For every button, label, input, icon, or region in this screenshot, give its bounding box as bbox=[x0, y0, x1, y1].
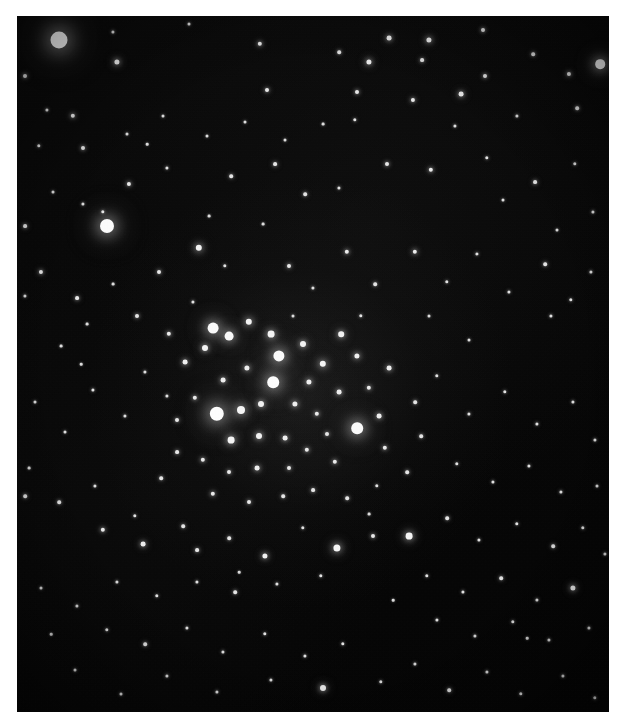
star bbox=[315, 412, 319, 416]
star bbox=[193, 396, 197, 400]
star bbox=[211, 492, 215, 496]
star bbox=[191, 300, 194, 303]
star bbox=[595, 59, 605, 69]
star bbox=[385, 162, 389, 166]
star bbox=[392, 599, 395, 602]
star bbox=[227, 470, 231, 474]
star bbox=[40, 587, 43, 590]
star bbox=[159, 476, 163, 480]
star bbox=[284, 139, 287, 142]
photographic-plate bbox=[0, 0, 619, 726]
star bbox=[93, 484, 96, 487]
star bbox=[126, 133, 129, 136]
star bbox=[515, 522, 518, 525]
star bbox=[75, 604, 78, 607]
star bbox=[287, 264, 291, 268]
star bbox=[256, 433, 262, 439]
star bbox=[183, 360, 188, 365]
star bbox=[273, 162, 277, 166]
star bbox=[123, 414, 126, 417]
star bbox=[181, 524, 185, 528]
star bbox=[435, 374, 438, 377]
star bbox=[481, 28, 485, 32]
star bbox=[105, 628, 108, 631]
star bbox=[23, 74, 27, 78]
star bbox=[570, 585, 575, 590]
star bbox=[229, 174, 233, 178]
star bbox=[507, 290, 510, 293]
star bbox=[337, 390, 342, 395]
star bbox=[387, 366, 392, 371]
page-margin-top bbox=[0, 0, 619, 16]
star bbox=[255, 466, 260, 471]
star bbox=[353, 118, 356, 121]
star bbox=[351, 422, 363, 434]
page-margin-right bbox=[609, 0, 619, 726]
star bbox=[596, 485, 599, 488]
star bbox=[175, 418, 179, 422]
star bbox=[383, 446, 387, 450]
star bbox=[195, 580, 198, 583]
star bbox=[71, 114, 75, 118]
star bbox=[322, 123, 325, 126]
star bbox=[429, 168, 433, 172]
star bbox=[196, 245, 202, 251]
star bbox=[80, 363, 83, 366]
sky-background-fog bbox=[17, 16, 609, 712]
star bbox=[244, 365, 249, 370]
star bbox=[411, 98, 415, 102]
star bbox=[354, 353, 359, 358]
star bbox=[28, 467, 31, 470]
star bbox=[435, 618, 438, 621]
star bbox=[281, 494, 285, 498]
star bbox=[275, 582, 278, 585]
star bbox=[371, 534, 375, 538]
star bbox=[473, 634, 476, 637]
star bbox=[133, 514, 136, 517]
star bbox=[575, 106, 579, 110]
star bbox=[167, 332, 171, 336]
star bbox=[143, 370, 146, 373]
star bbox=[306, 379, 311, 384]
star bbox=[571, 400, 574, 403]
star bbox=[51, 32, 68, 49]
star bbox=[23, 494, 27, 498]
star bbox=[210, 407, 224, 421]
star bbox=[535, 422, 538, 425]
star bbox=[269, 678, 272, 681]
caption bbox=[17, 713, 609, 726]
star bbox=[74, 669, 77, 672]
star bbox=[569, 298, 572, 301]
star bbox=[208, 215, 211, 218]
star bbox=[320, 685, 326, 691]
star bbox=[175, 450, 179, 454]
star bbox=[527, 464, 530, 467]
star bbox=[319, 574, 322, 577]
star bbox=[23, 224, 27, 228]
star bbox=[368, 513, 371, 516]
star bbox=[303, 654, 306, 657]
star bbox=[221, 378, 226, 383]
star bbox=[405, 470, 409, 474]
star bbox=[502, 199, 505, 202]
star bbox=[60, 345, 63, 348]
film-grain-overlay bbox=[17, 16, 609, 712]
star bbox=[445, 280, 448, 283]
star bbox=[311, 488, 315, 492]
star bbox=[387, 36, 392, 41]
star bbox=[367, 386, 371, 390]
star bbox=[453, 124, 456, 127]
star bbox=[311, 286, 314, 289]
star bbox=[406, 533, 413, 540]
star bbox=[188, 23, 191, 26]
star bbox=[593, 696, 596, 699]
star bbox=[100, 219, 114, 233]
star bbox=[141, 542, 146, 547]
star bbox=[341, 642, 344, 645]
star bbox=[300, 341, 306, 347]
star bbox=[244, 121, 247, 124]
star bbox=[477, 538, 480, 541]
star bbox=[526, 637, 529, 640]
star bbox=[337, 186, 340, 189]
star bbox=[366, 59, 371, 64]
